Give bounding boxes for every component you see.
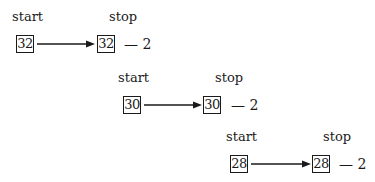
arrow-icon bbox=[251, 159, 313, 169]
arrow-icon bbox=[144, 100, 204, 110]
start-value-box: 28 bbox=[230, 155, 248, 173]
start-label: start bbox=[226, 130, 257, 144]
decrement-label: — 2 bbox=[231, 97, 258, 113]
start-label: start bbox=[118, 71, 149, 85]
stop-label: stop bbox=[323, 130, 351, 144]
stop-label: stop bbox=[215, 71, 243, 85]
diagram-row-3: start stop 28 28 — 2 bbox=[0, 0, 375, 60]
stop-value-box: 30 bbox=[203, 96, 221, 114]
decrement-label: — 2 bbox=[339, 156, 366, 172]
stop-value-box: 28 bbox=[312, 155, 330, 173]
start-value-box: 30 bbox=[123, 96, 141, 114]
